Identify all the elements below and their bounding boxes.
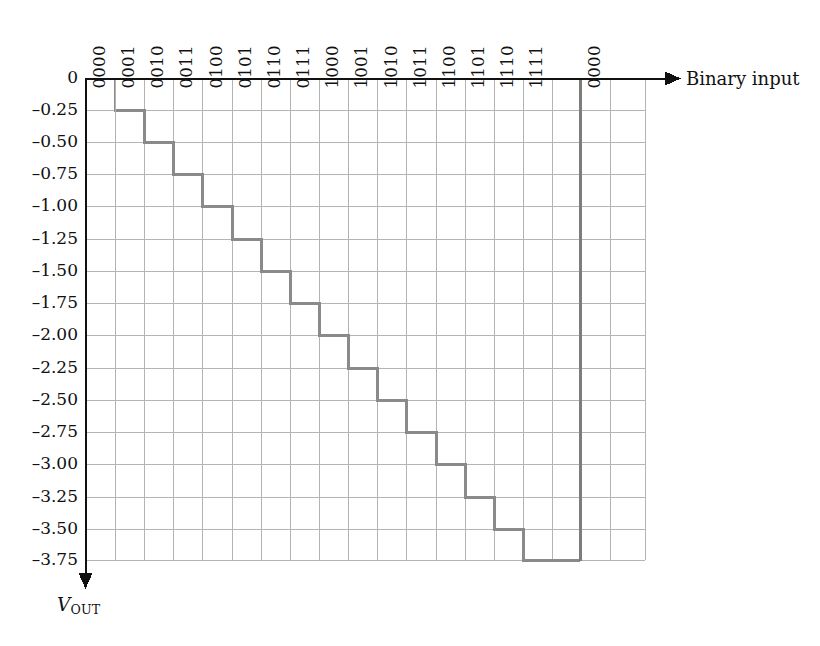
y-axis-title: VOUT (57, 594, 100, 615)
y-tick-label-100: –1.00 (0, 197, 78, 214)
x-tick-label-0011: 0011 (179, 45, 196, 88)
x-tick-label-1001: 1001 (354, 45, 371, 88)
y-tick-label-300: –3.00 (0, 455, 78, 472)
x-tick-label-0101: 0101 (238, 45, 255, 88)
y-tick-label-275: –2.75 (0, 423, 78, 440)
x-tick-label-1000: 1000 (325, 45, 342, 88)
dac-staircase-figure: 0000 0001 0010 0011 0100 0101 0110 0111 … (0, 0, 820, 646)
grid-vertical (86, 78, 646, 560)
y-tick-label-200: –2.00 (0, 326, 78, 343)
y-tick-label-350: –3.50 (0, 520, 78, 537)
y-tick-label-125: –1.25 (0, 230, 78, 247)
x-tick-label-1100: 1100 (442, 45, 459, 88)
y-tick-label-150: –1.50 (0, 262, 78, 279)
x-axis-title: Binary input (686, 68, 800, 89)
y-tick-label-050: –0.50 (0, 133, 78, 150)
y-tick-label-325: –3.25 (0, 488, 78, 505)
y-axis-arrowhead (79, 573, 93, 589)
y-axis-title-symbol: V (57, 594, 70, 615)
x-axis-arrowhead (665, 72, 681, 86)
x-tick-label-1110: 1110 (500, 45, 517, 88)
x-tick-label-0001: 0001 (121, 45, 138, 88)
grid-horizontal (85, 111, 645, 561)
plot-canvas (0, 0, 820, 646)
x-tick-label-0010: 0010 (150, 45, 167, 88)
y-tick-label-025: –0.25 (0, 101, 78, 118)
x-tick-label-0000-first: 0000 (92, 45, 109, 88)
y-axis-title-subscript: OUT (70, 602, 100, 617)
x-tick-label-0110: 0110 (267, 45, 284, 88)
x-tick-label-1111: 1111 (529, 45, 546, 88)
vout-staircase-trace (115, 79, 580, 561)
x-tick-label-0100: 0100 (209, 45, 226, 88)
x-tick-label-0000-second: 0000 (587, 45, 604, 88)
axes (79, 72, 682, 590)
y-tick-label-175: –1.75 (0, 294, 78, 311)
x-tick-label-1010: 1010 (384, 45, 401, 88)
y-tick-label-0: 0 (0, 69, 78, 86)
y-tick-label-250: –2.50 (0, 391, 78, 408)
x-tick-label-1101: 1101 (471, 45, 488, 88)
x-tick-label-0111: 0111 (296, 45, 313, 88)
y-tick-label-075: –0.75 (0, 165, 78, 182)
y-tick-label-375: –3.75 (0, 551, 78, 568)
x-tick-label-1011: 1011 (413, 45, 430, 88)
y-tick-label-225: –2.25 (0, 359, 78, 376)
